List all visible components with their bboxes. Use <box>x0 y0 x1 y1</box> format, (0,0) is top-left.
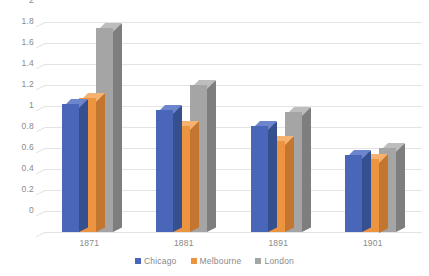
y-axis-tick-label: 0 <box>29 205 34 215</box>
x-axis-category-label: 1901 <box>363 238 383 248</box>
y-axis-tick-label: 0.2 <box>22 184 34 194</box>
legend-swatch-icon <box>255 258 261 264</box>
legend-label: Chicago <box>144 256 177 266</box>
bar-face-side <box>268 122 277 232</box>
plot-area <box>44 22 422 232</box>
bar-group-1871 <box>62 22 113 232</box>
legend-label: London <box>264 256 294 266</box>
legend-item-london[interactable]: London <box>255 256 294 266</box>
bar-chicago-1891 <box>251 126 268 232</box>
bar-face-side <box>173 106 182 232</box>
legend-item-chicago[interactable]: Chicago <box>135 256 177 266</box>
bar-face-front <box>251 126 268 232</box>
bar-face-side <box>113 24 122 232</box>
bar-chicago-1901 <box>345 155 362 232</box>
legend-swatch-icon <box>135 258 141 264</box>
y-axis-tick-label: 0.4 <box>22 163 34 173</box>
bar-face-side <box>285 136 294 232</box>
bar-face-front <box>156 110 173 232</box>
x-axis-category-label: 1891 <box>268 238 288 248</box>
y-axis-tick-label: 1 <box>29 100 34 110</box>
bar-face-side <box>302 108 311 232</box>
bar-face-side <box>396 144 405 232</box>
y-axis-tick-labels: 00.20.40.60.811.21.41.61.82 <box>0 0 40 210</box>
bar-group-1901 <box>345 22 396 232</box>
x-axis-category-labels: 1871188118911901 <box>44 238 422 252</box>
bar-group-1881 <box>156 22 207 232</box>
bar-groups <box>44 22 422 232</box>
bar-chicago-1871 <box>62 104 79 232</box>
legend-swatch-icon <box>191 258 197 264</box>
y-axis-tick-label: 1.2 <box>22 79 34 89</box>
bar-face-side <box>207 81 216 232</box>
bar-group-1891 <box>251 22 302 232</box>
y-axis-tick-label: 1.8 <box>22 16 34 26</box>
bar-face-side <box>379 154 388 232</box>
y-axis-tick-label: 0.8 <box>22 121 34 131</box>
gridline <box>44 232 422 233</box>
bar-chicago-1881 <box>156 110 173 232</box>
bar-face-side <box>79 100 88 232</box>
y-axis-tick-label: 1.4 <box>22 58 34 68</box>
bar-chart: 00.20.40.60.811.21.41.61.82 187118811891… <box>0 0 429 276</box>
bar-face-front <box>345 155 362 232</box>
legend-label: Melbourne <box>200 256 242 266</box>
chart-legend: ChicagoMelbourneLondon <box>0 256 429 266</box>
y-axis-tick-label: 2 <box>29 0 34 5</box>
bar-face-side <box>362 151 371 232</box>
bar-face-front <box>62 104 79 232</box>
bar-face-side <box>96 93 105 232</box>
y-axis-tick-label: 1.6 <box>22 37 34 47</box>
legend-item-melbourne[interactable]: Melbourne <box>191 256 242 266</box>
y-axis-tick-label: 0.6 <box>22 142 34 152</box>
x-axis-category-label: 1871 <box>79 238 99 248</box>
x-axis-category-label: 1881 <box>174 238 194 248</box>
bar-face-side <box>190 122 199 232</box>
